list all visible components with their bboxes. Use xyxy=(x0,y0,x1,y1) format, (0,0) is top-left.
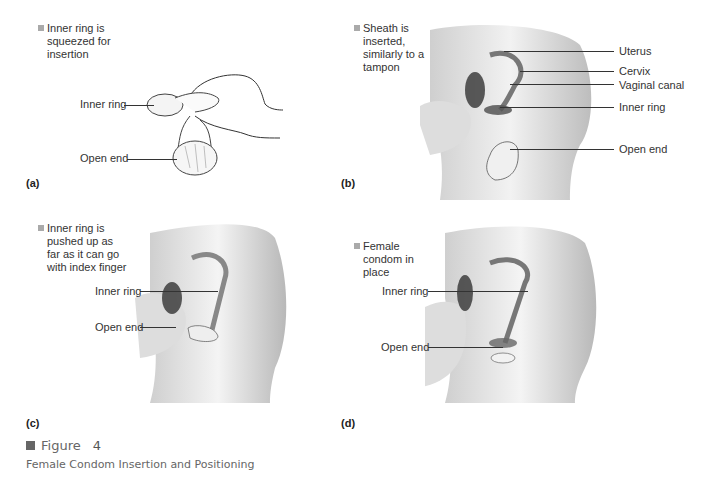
leader-line xyxy=(428,347,503,348)
leader-line xyxy=(124,105,154,106)
label-cervix: Cervix xyxy=(619,65,650,77)
pelvis-insertion-illustration xyxy=(420,15,600,205)
panel-label-a: (a) xyxy=(26,177,39,189)
bullet-icon xyxy=(38,25,44,31)
leader-line xyxy=(140,291,218,292)
bullet-icon xyxy=(38,225,44,231)
leader-line xyxy=(504,51,614,52)
bullet-icon xyxy=(354,243,360,249)
hand-squeezing-ring-illustration xyxy=(140,68,290,178)
label-open-end-c: Open end xyxy=(95,321,143,333)
leader-line xyxy=(510,84,614,85)
figure-number: 4 xyxy=(93,438,101,453)
step-text-b: Sheath is inserted, similarly to a tampo… xyxy=(354,22,424,74)
bullet-icon xyxy=(354,25,360,31)
leader-line xyxy=(127,159,177,160)
leader-line xyxy=(500,107,614,108)
panel-label-b: (b) xyxy=(341,177,355,189)
label-inner-ring-b: Inner ring xyxy=(619,101,665,113)
step-text-d: Female condom in place xyxy=(354,240,414,279)
panel-label-d: (d) xyxy=(341,417,355,429)
label-open-end-a: Open end xyxy=(80,152,128,164)
condom-in-place-illustration xyxy=(425,218,605,408)
label-open-end-b: Open end xyxy=(619,143,667,155)
figure-caption: Female Condom Insertion and Positioning xyxy=(26,458,254,471)
panel-label-c: (c) xyxy=(26,417,39,429)
pelvis-push-ring-illustration xyxy=(130,218,300,408)
label-inner-ring-d: Inner ring xyxy=(382,285,428,297)
leader-line xyxy=(510,149,614,150)
step-text-c: Inner ring is pushed up as far as it can… xyxy=(38,222,127,274)
label-open-end-d: Open end xyxy=(381,341,429,353)
leader-line xyxy=(520,71,614,72)
step-text-a: Inner ring is squeezed for insertion xyxy=(38,22,111,61)
label-vaginal-canal: Vaginal canal xyxy=(619,79,684,91)
leader-line xyxy=(140,327,176,328)
leader-line xyxy=(428,291,528,292)
figure-title: Figure4 xyxy=(26,438,101,453)
label-inner-ring-c: Inner ring xyxy=(95,285,141,297)
label-inner-ring-a: Inner ring xyxy=(80,98,126,110)
label-uterus: Uterus xyxy=(619,45,651,57)
square-bullet-icon xyxy=(26,441,35,450)
